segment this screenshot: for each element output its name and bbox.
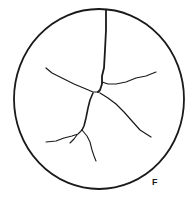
- crack-down: [82, 93, 93, 130]
- cracked-circle-figure: [0, 0, 193, 197]
- crack-left-upper: [46, 68, 99, 92]
- crack-down-lower: [82, 130, 96, 161]
- crack-right-upper: [102, 72, 156, 84]
- circle-outline: [14, 9, 184, 189]
- crack-main-vertical: [98, 10, 106, 92]
- crack-right-lower: [100, 93, 151, 137]
- figure-label: F: [152, 177, 158, 187]
- crack-lines: [46, 10, 156, 161]
